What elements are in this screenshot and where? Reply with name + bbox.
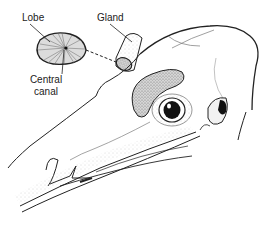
label-central-line1: Central <box>28 74 64 86</box>
label-central-line2: canal <box>28 86 64 98</box>
eye <box>152 94 192 126</box>
gland-piece <box>110 24 142 73</box>
label-central-canal: Central canal <box>28 74 64 98</box>
label-lobe: Lobe <box>22 12 44 24</box>
diagram-drawing <box>0 0 272 226</box>
label-gland: Gland <box>97 12 124 24</box>
bird-head-diagram: Lobe Gland Central canal <box>0 0 272 226</box>
lobe-cross-section <box>30 24 116 74</box>
neck-line <box>238 112 246 140</box>
ear-opening <box>208 98 227 125</box>
